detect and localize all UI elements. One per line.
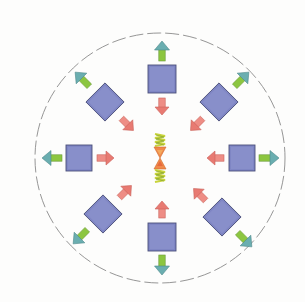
inward-arrow-icon bbox=[207, 151, 224, 165]
outward-arrow-icon bbox=[155, 255, 170, 275]
inward-arrow-icon bbox=[114, 181, 136, 203]
outward-arrow-icon bbox=[70, 67, 95, 92]
block-group-left bbox=[42, 145, 114, 171]
outward-arrow-icon bbox=[155, 41, 170, 61]
block-texture bbox=[68, 147, 90, 169]
outward-arrow-icon bbox=[229, 67, 254, 92]
radial-force-diagram bbox=[0, 0, 305, 302]
inward-arrow-icon bbox=[155, 98, 169, 115]
outward-arrow-icon bbox=[68, 224, 93, 249]
block-texture bbox=[203, 86, 236, 119]
inward-arrow-icon bbox=[155, 201, 169, 218]
block-group-bottom-left bbox=[68, 181, 137, 250]
block-texture bbox=[150, 225, 174, 249]
block-texture bbox=[231, 147, 253, 169]
block-group-top-right bbox=[186, 67, 255, 136]
spring-top-icon bbox=[155, 134, 165, 146]
inward-arrow-icon bbox=[97, 151, 114, 165]
block-texture bbox=[206, 201, 239, 234]
outward-arrow-icon bbox=[232, 227, 257, 252]
block-texture bbox=[87, 198, 120, 231]
hourglass-icon bbox=[154, 147, 166, 169]
block-group-top-left bbox=[70, 67, 139, 136]
block-texture bbox=[89, 86, 122, 119]
outward-arrow-icon bbox=[259, 151, 279, 166]
center-spring-hourglass bbox=[154, 134, 166, 182]
inward-arrow-icon bbox=[189, 184, 211, 206]
outward-arrow-icon bbox=[42, 151, 62, 166]
inward-arrow-icon bbox=[116, 113, 138, 135]
block-group-bottom-right bbox=[189, 184, 258, 253]
block-group-bottom bbox=[148, 201, 176, 275]
block-group-top bbox=[148, 41, 176, 115]
inward-arrow-icon bbox=[186, 113, 208, 135]
block-texture bbox=[150, 67, 174, 91]
block-group-right bbox=[207, 145, 279, 171]
spring-bottom-icon bbox=[155, 170, 165, 182]
blocks-layer bbox=[42, 41, 279, 275]
